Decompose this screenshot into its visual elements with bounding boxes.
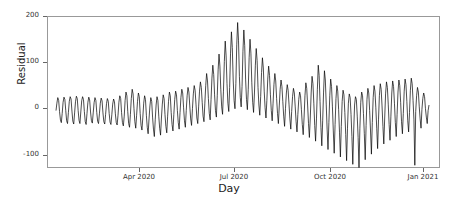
residual-time-series-figure: Residual 2001000-100 Apr 2020Jul 2020Oct… (0, 0, 458, 202)
residual-series-line (48, 17, 441, 169)
y-tick-label: -100 (0, 151, 39, 158)
y-tick-mark (43, 16, 47, 17)
y-tick-mark (43, 108, 47, 109)
y-tick-label: 200 (0, 12, 39, 19)
plot-area (47, 16, 440, 168)
x-tick-mark (234, 168, 235, 172)
y-tick-mark (43, 62, 47, 63)
x-tick-mark (423, 168, 424, 172)
x-tick-label: Jan 2021 (388, 174, 458, 181)
x-tick-label: Oct 2020 (295, 174, 365, 181)
x-tick-mark (330, 168, 331, 172)
y-tick-label: 100 (0, 58, 39, 65)
x-tick-mark (139, 168, 140, 172)
x-axis-label: Day (0, 182, 458, 195)
x-tick-label: Jul 2020 (199, 174, 269, 181)
y-tick-mark (43, 155, 47, 156)
x-tick-label: Apr 2020 (104, 174, 174, 181)
y-tick-label: 0 (0, 104, 39, 111)
